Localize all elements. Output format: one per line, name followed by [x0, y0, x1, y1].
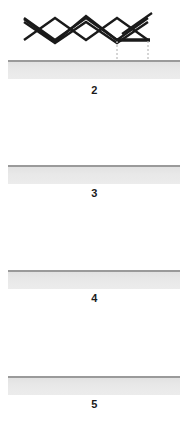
carbon-skeleton-5	[24, 18, 148, 40]
figure-root: 2 3 4	[0, 0, 189, 424]
panel-label-4: 4	[0, 292, 189, 304]
surface-bar-3	[8, 167, 180, 184]
panel-label-3: 3	[0, 187, 189, 199]
surface-bar-5	[8, 378, 180, 395]
panel-label-2: 2	[0, 84, 189, 96]
surface-bar-4	[8, 272, 180, 289]
panel-label-5: 5	[0, 398, 189, 410]
structure-panel-4: 4	[0, 210, 189, 313]
structure-panel-3: 3	[0, 105, 189, 208]
structure-panel-5: 5	[0, 316, 189, 424]
